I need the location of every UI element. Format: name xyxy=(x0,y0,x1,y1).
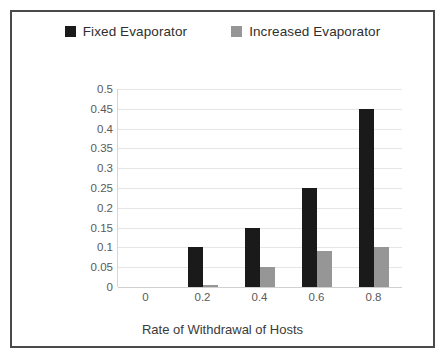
legend-swatch-gray-icon xyxy=(231,26,242,37)
bar-increased-evaporator xyxy=(317,251,332,287)
y-axis-tick-labels: 0.50.450.40.350.30.250.20.150.10.050 xyxy=(69,89,113,287)
y-axis-tick-label: 0.5 xyxy=(71,83,113,95)
bar-fixed-evaporator xyxy=(245,228,260,287)
bar-group xyxy=(175,89,232,287)
plot-area xyxy=(117,89,402,287)
chart-legend: Fixed Evaporator Increased Evaporator xyxy=(12,24,433,39)
x-axis-title: Rate of Withdrawal of Hosts xyxy=(12,322,433,337)
y-axis-tick-label: 0.1 xyxy=(71,241,113,253)
x-axis-tick-label: 0.8 xyxy=(345,291,402,303)
y-axis-tick-label: 0.25 xyxy=(71,182,113,194)
x-axis-tick-label: 0.4 xyxy=(231,291,288,303)
legend-label-fixed-evaporator: Fixed Evaporator xyxy=(83,24,187,39)
bar-fixed-evaporator xyxy=(302,188,317,287)
bar-fixed-evaporator xyxy=(359,109,374,287)
y-axis-tick-label: 0.45 xyxy=(71,103,113,115)
bar-group xyxy=(345,89,402,287)
y-axis-tick-label: 0.05 xyxy=(71,261,113,273)
legend-entry-increased-evaporator: Increased Evaporator xyxy=(231,24,380,39)
x-axis-tick-label: 0.2 xyxy=(174,291,231,303)
bar-group xyxy=(288,89,345,287)
bar-increased-evaporator xyxy=(203,285,218,287)
y-axis-tick-label: 0.15 xyxy=(71,222,113,234)
y-axis-tick-label: 0.3 xyxy=(71,162,113,174)
bar-fixed-evaporator xyxy=(188,247,203,287)
legend-entry-fixed-evaporator: Fixed Evaporator xyxy=(65,24,187,39)
bar-groups xyxy=(118,89,402,287)
gridline xyxy=(118,287,402,288)
bar-group xyxy=(232,89,289,287)
x-axis-tick-label: 0 xyxy=(117,291,174,303)
y-axis-tick-label: 0.35 xyxy=(71,142,113,154)
y-axis-tick-label: 0.4 xyxy=(71,123,113,135)
bar-increased-evaporator xyxy=(374,247,389,287)
x-axis-tick-labels: 00.20.40.60.8 xyxy=(117,291,402,303)
legend-swatch-black-icon xyxy=(65,26,76,37)
bar-increased-evaporator xyxy=(260,267,275,287)
y-axis-tick-label: 0.2 xyxy=(71,202,113,214)
bar-group xyxy=(118,89,175,287)
y-axis-tick-label: 0 xyxy=(71,281,113,293)
legend-label-increased-evaporator: Increased Evaporator xyxy=(249,24,380,39)
x-axis-tick-label: 0.6 xyxy=(288,291,345,303)
figure-frame: Fixed Evaporator Increased Evaporator Ra… xyxy=(10,10,435,348)
